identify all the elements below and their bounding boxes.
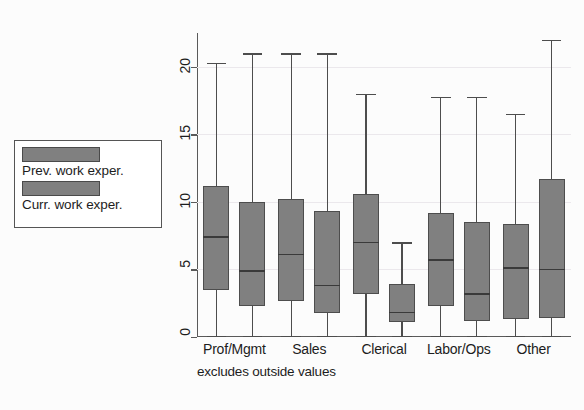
whisker-upper	[401, 242, 402, 284]
x-tick-label: Other	[517, 341, 551, 357]
whisker-lower	[327, 313, 328, 337]
whisker-cap-lower	[392, 336, 412, 337]
y-tick-label: 0	[178, 328, 192, 336]
box-curr-other	[539, 179, 565, 318]
whisker-upper	[291, 53, 292, 199]
whisker-upper	[365, 94, 366, 194]
y-tick-mark	[191, 337, 197, 338]
y-tick-mark	[191, 269, 197, 270]
median-line	[314, 285, 340, 287]
whisker-lower	[476, 321, 477, 337]
y-tick-label: 5	[178, 260, 192, 268]
box-prev-sales	[278, 199, 304, 300]
legend-swatch-curr	[22, 181, 100, 196]
whisker-cap-lower	[281, 336, 301, 337]
x-tick-label: Clerical	[361, 341, 406, 357]
whisker-cap-upper	[506, 114, 526, 115]
median-line	[353, 242, 379, 244]
x-tick-label: Labor/Ops	[427, 341, 491, 357]
box-curr-labor-ops	[464, 222, 490, 321]
legend-swatch-prev	[22, 147, 100, 162]
whisker-upper	[476, 97, 477, 223]
boxplot-figure: Prev. work exper. Curr. work exper. 0510…	[0, 0, 584, 410]
whisker-lower	[515, 319, 516, 337]
whisker-upper	[216, 63, 217, 186]
whisker-cap-upper	[542, 40, 562, 41]
box-curr-sales	[314, 211, 340, 312]
chart-legend: Prev. work exper. Curr. work exper.	[14, 140, 162, 228]
whisker-cap-upper	[392, 242, 412, 243]
whisker-cap-lower	[356, 336, 376, 337]
whisker-lower	[291, 301, 292, 337]
whisker-lower	[252, 306, 253, 337]
box-curr-prof-mgmt	[239, 202, 265, 306]
median-line	[239, 270, 265, 272]
y-tick-label: 15	[178, 125, 192, 141]
median-line	[503, 267, 529, 269]
whisker-upper	[327, 53, 328, 211]
whisker-cap-lower	[506, 336, 526, 337]
box-curr-clerical	[389, 284, 415, 322]
x-tick-label: Prof/Mgmt	[203, 341, 266, 357]
median-line	[428, 259, 454, 261]
median-line	[203, 236, 229, 238]
whisker-cap-lower	[243, 336, 263, 337]
whisker-cap-upper	[317, 53, 337, 54]
median-line	[539, 269, 565, 271]
legend-item-prev: Prev. work exper.	[22, 147, 154, 179]
gridline	[197, 67, 571, 68]
whisker-cap-upper	[243, 53, 263, 54]
whisker-cap-lower	[207, 336, 227, 337]
legend-label-curr: Curr. work exper.	[22, 197, 154, 213]
median-line	[389, 312, 415, 314]
whisker-cap-upper	[207, 63, 227, 64]
whisker-lower	[551, 318, 552, 337]
whisker-cap-lower	[542, 336, 562, 337]
whisker-cap-upper	[431, 97, 451, 98]
legend-item-curr: Curr. work exper.	[22, 181, 154, 213]
whisker-cap-lower	[467, 336, 487, 337]
whisker-cap-upper	[467, 97, 487, 98]
box-prev-clerical	[353, 194, 379, 294]
whisker-cap-upper	[356, 94, 376, 95]
legend-label-prev: Prev. work exper.	[22, 163, 154, 179]
whisker-lower	[440, 306, 441, 337]
chart-footnote: excludes outside values	[197, 364, 336, 379]
median-line	[278, 254, 304, 256]
whisker-upper	[440, 97, 441, 213]
median-line	[464, 293, 490, 295]
whisker-upper	[551, 40, 552, 179]
box-prev-other	[503, 224, 529, 320]
y-tick-label: 10	[178, 193, 192, 209]
x-tick-label: Sales	[292, 341, 326, 357]
plot-area: 05101520 Prof/MgmtSalesClericalLabor/Ops…	[197, 33, 571, 337]
y-tick-label: 20	[178, 58, 192, 74]
whisker-lower	[365, 294, 366, 337]
whisker-upper	[252, 53, 253, 202]
whisker-cap-upper	[281, 53, 301, 54]
whisker-cap-lower	[431, 336, 451, 337]
whisker-cap-lower	[317, 336, 337, 337]
whisker-lower	[216, 290, 217, 337]
whisker-upper	[515, 114, 516, 223]
